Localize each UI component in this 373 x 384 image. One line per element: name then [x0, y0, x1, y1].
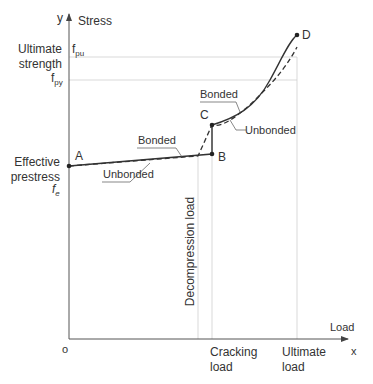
bonded-curve: [69, 35, 297, 166]
point-d-dot: [295, 33, 300, 38]
fe-label: fe: [52, 183, 60, 200]
point-b-label: B: [218, 151, 226, 164]
unbonded-curve: [69, 47, 297, 166]
cracking-load-label: Cracking load: [210, 345, 257, 375]
bonded-lower-label: Bonded: [138, 134, 176, 147]
origin-label: o: [62, 343, 68, 356]
x-axis-letter: x: [351, 345, 357, 358]
point-c-label: C: [200, 109, 209, 122]
bonded-upper-label: Bonded: [200, 88, 238, 101]
ultimate-load-label: Ultimate load: [282, 345, 326, 375]
unbonded-upper-label: Unbonded: [245, 124, 296, 137]
point-c-dot: [210, 123, 215, 128]
x-axis-title: Load: [330, 321, 354, 334]
point-a-dot: [67, 164, 72, 169]
fpy-label: fpy: [51, 72, 63, 89]
effective-prestress-label: Effective prestress: [2, 155, 60, 185]
y-axis-title: Stress: [78, 15, 112, 28]
ultimate-strength-label: Ultimate strength: [10, 42, 62, 72]
point-d-label: D: [302, 29, 311, 42]
point-b-dot: [210, 152, 215, 157]
fpu-label: fpu: [72, 43, 84, 60]
unbonded-lower-label: Unbonded: [103, 168, 154, 181]
point-a-label: A: [75, 150, 83, 163]
decompression-load-label: Decompression load: [184, 192, 197, 312]
y-axis-letter: y: [57, 12, 63, 25]
